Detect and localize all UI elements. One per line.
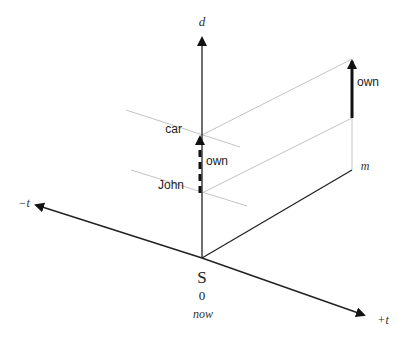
positive-t-axis bbox=[202, 258, 364, 315]
diagram-canvas: d −t +t m car John own own S 0 now bbox=[0, 0, 403, 341]
d-axis-label: d bbox=[199, 14, 206, 29]
relation-arrows bbox=[200, 61, 352, 193]
negative-t-axis bbox=[36, 205, 202, 258]
car-cross-line bbox=[126, 110, 240, 147]
john-cross-line bbox=[131, 170, 247, 206]
car-level-line bbox=[202, 59, 352, 135]
origin-value: 0 bbox=[199, 288, 206, 303]
origin-caption: now bbox=[193, 307, 213, 321]
own-label-m: own bbox=[357, 75, 379, 89]
car-label: car bbox=[165, 122, 182, 136]
m-axis-label: m bbox=[361, 159, 370, 173]
m-axis bbox=[202, 170, 352, 258]
negative-t-label: −t bbox=[18, 196, 30, 210]
origin-symbol: S bbox=[197, 268, 206, 287]
positive-t-label: +t bbox=[377, 313, 389, 327]
own-label-origin: own bbox=[206, 154, 228, 168]
john-label: John bbox=[158, 178, 184, 192]
